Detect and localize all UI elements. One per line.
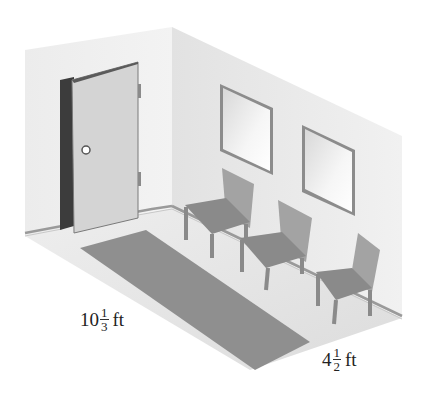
length-dimension-label: 10 1 3 ft (80, 306, 124, 333)
width-denominator: 2 (333, 360, 342, 373)
width-numerator: 1 (333, 346, 342, 360)
room-illustration (0, 0, 424, 399)
length-numerator: 1 (100, 306, 109, 320)
length-fraction: 1 3 (100, 306, 109, 333)
door-hinge-bottom (138, 172, 141, 186)
width-whole: 4 (322, 349, 332, 371)
length-denominator: 3 (100, 320, 109, 333)
door-knob-icon[interactable] (82, 146, 90, 154)
width-dimension-label: 4 1 2 ft (322, 346, 357, 373)
width-unit: ft (345, 349, 357, 371)
length-unit: ft (113, 309, 125, 331)
door-hinge-top (138, 84, 141, 98)
length-whole: 10 (80, 309, 99, 331)
width-fraction: 1 2 (333, 346, 342, 373)
door[interactable] (72, 62, 141, 233)
